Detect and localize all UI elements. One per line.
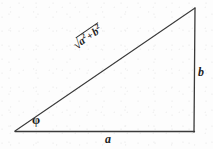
figure-canvas: √a2+b2 b a φ [0, 0, 213, 149]
base-side-label: a [105, 133, 111, 145]
angle-phi-label: φ [32, 113, 40, 126]
height-side-label: b [198, 66, 204, 78]
hypotenuse-line [15, 8, 195, 131]
height-side-line [194, 8, 195, 132]
